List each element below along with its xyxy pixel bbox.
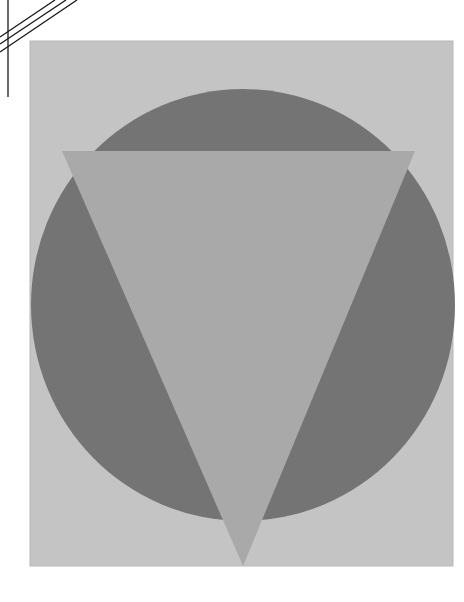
geometric-artwork	[0, 0, 464, 602]
